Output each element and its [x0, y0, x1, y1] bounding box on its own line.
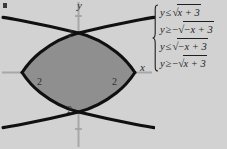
inequality-1-radicand: x + 3 — [177, 4, 200, 20]
x-axis-label: x — [140, 61, 145, 73]
figure-page: y x 2 2 2 2 y≤√x + 3 y≥−√−x + 3 y≤√−x + … — [0, 0, 227, 149]
inequality-1-radical: √x + 3 — [172, 4, 200, 20]
inequality-2-radicand: −x + 3 — [183, 21, 213, 37]
left-curly-brace-icon — [152, 4, 159, 72]
inequality-1-lhs: y — [160, 7, 165, 18]
inequality-3-lhs: y — [160, 41, 165, 52]
coordinate-graph: y x 2 2 2 2 — [0, 0, 155, 149]
inequality-row-1: y≤√x + 3 — [160, 4, 227, 20]
inequality-3-radicand: −x + 3 — [177, 38, 207, 54]
y-tick-label-negative-2: 2 — [67, 104, 72, 115]
inequality-list: y≤√x + 3 y≥−√−x + 3 y≤√−x + 3 y≥−√x + 3 — [160, 4, 227, 71]
inequality-row-2: y≥−√−x + 3 — [160, 21, 227, 37]
inequality-4-lhs: y — [160, 58, 165, 69]
y-axis-label: y — [77, 0, 82, 11]
inequality-2-radical: √−x + 3 — [178, 21, 213, 37]
inequality-4-radicand: x + 3 — [183, 55, 206, 71]
inequality-3-radical: √−x + 3 — [172, 38, 207, 54]
system-of-inequalities: y≤√x + 3 y≥−√−x + 3 y≤√−x + 3 y≥−√x + 3 — [152, 0, 227, 75]
inequality-3-relation: ≤ — [165, 41, 173, 52]
y-tick-label-positive-2: 2 — [68, 28, 73, 39]
x-tick-label-positive-2: 2 — [112, 76, 117, 87]
inequality-row-4: y≥−√x + 3 — [160, 55, 227, 71]
shaded-solution-region — [22, 33, 135, 112]
inequality-2-lhs: y — [160, 24, 165, 35]
inequality-1-relation: ≤ — [165, 7, 173, 18]
inequality-row-3: y≤√−x + 3 — [160, 38, 227, 54]
x-tick-label-negative-2: 2 — [37, 76, 42, 87]
inequality-4-radical: √x + 3 — [178, 55, 206, 71]
